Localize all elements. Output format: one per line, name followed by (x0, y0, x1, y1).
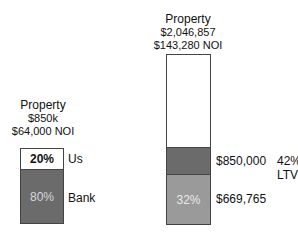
left-property-label: Property $850k $64,000 NOI (2, 99, 84, 138)
left-title: Property (2, 99, 84, 112)
left-bank-segment: 80% (21, 170, 63, 223)
ltv-label: LTV (277, 168, 298, 182)
right-bar: 32% (166, 54, 211, 225)
left-bar: 20% 80% (20, 148, 64, 224)
right-bank-segment: 32% (167, 175, 210, 224)
right-title: Property (143, 13, 233, 26)
ltv-percent: 42% (277, 154, 298, 168)
right-noi: $143,280 NOI (143, 39, 233, 52)
right-loan-segment (167, 148, 210, 175)
left-noi: $64,000 NOI (2, 125, 84, 138)
left-value: $850k (2, 112, 84, 125)
right-property-label: Property $2,046,857 $143,280 NOI (143, 13, 233, 52)
us-label: Us (68, 152, 83, 166)
bank-amount: $669,765 (216, 192, 266, 206)
left-us-segment: 20% (21, 149, 63, 170)
right-value: $2,046,857 (143, 26, 233, 39)
loan-amount: $850,000 (216, 154, 266, 168)
right-equity-segment (167, 55, 210, 148)
bank-label: Bank (68, 191, 95, 205)
